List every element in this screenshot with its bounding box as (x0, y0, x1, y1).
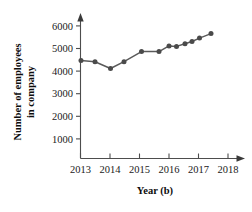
x-tick-label-2013: 2013 (70, 164, 91, 175)
y-tick-label-5000: 5000 (52, 43, 73, 54)
data-point (209, 31, 214, 36)
x-tick-label-2017: 2017 (188, 164, 209, 175)
x-axis-ticks (81, 153, 229, 159)
y-tick-label-2000: 2000 (52, 111, 73, 122)
y-axis-arrow-icon (77, 13, 83, 22)
data-point (167, 43, 172, 48)
x-tick-label-2016: 2016 (159, 164, 180, 175)
data-point (157, 49, 162, 54)
data-point (174, 44, 179, 49)
y-tick-label-3000: 3000 (52, 88, 73, 99)
y-tick-label-1000: 1000 (52, 134, 73, 145)
chart-canvas: 6000 5000 4000 3000 2000 1000 2013 2014 … (0, 0, 252, 212)
data-point (122, 59, 127, 64)
y-axis-title-line2: in company (25, 65, 36, 118)
x-tick-label-2015: 2015 (129, 164, 150, 175)
y-axis-title: Number of employees in company (12, 43, 36, 140)
data-point (108, 66, 113, 71)
data-point (79, 58, 84, 63)
x-axis-title: Year (b) (137, 185, 174, 197)
y-axis-ticks (76, 26, 81, 139)
y-axis-tick-labels: 6000 5000 4000 3000 2000 1000 (52, 21, 73, 145)
y-axis-title-line1: Number of employees (12, 43, 23, 140)
x-tick-label-2018: 2018 (218, 164, 239, 175)
data-point (190, 39, 195, 44)
y-tick-label-4000: 4000 (52, 66, 73, 77)
x-tick-label-2014: 2014 (100, 164, 122, 175)
y-tick-label-6000: 6000 (52, 21, 73, 32)
data-point (183, 41, 188, 46)
x-axis-tick-labels: 2013 2014 2015 2016 2017 2018 (70, 164, 239, 175)
x-axis-arrow-icon (237, 155, 246, 161)
data-point (139, 49, 144, 54)
data-point (197, 36, 202, 41)
employee-count-series-line (81, 34, 211, 69)
employee-count-line-chart: 6000 5000 4000 3000 2000 1000 2013 2014 … (0, 0, 252, 212)
data-point (93, 59, 98, 64)
